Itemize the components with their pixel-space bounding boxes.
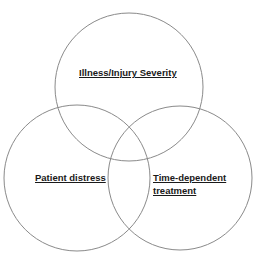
venn-diagram xyxy=(0,0,258,258)
label-time-dependent-line1: Time-dependent xyxy=(153,171,226,184)
label-time-dependent-line2: treatment xyxy=(153,184,196,197)
label-illness-injury-severity: Illness/Injury Severity xyxy=(79,66,177,79)
label-patient-distress: Patient distress xyxy=(35,171,106,184)
circle-illness-injury-severity xyxy=(55,13,203,161)
